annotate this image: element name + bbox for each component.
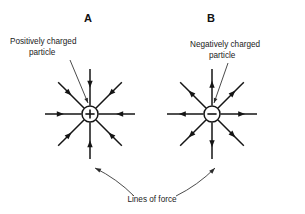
panel-a-field-arrow-icon xyxy=(87,140,92,147)
lines-of-force-label: Lines of force xyxy=(127,195,177,204)
panel-b-field-arrow-icon xyxy=(238,111,245,116)
panel-a-label-line-1: Positively charged xyxy=(10,37,77,46)
panel-a-leader-arrow-icon xyxy=(84,98,88,103)
field-lines-figure: APositively chargedparticleBNegatively c… xyxy=(0,0,305,214)
panel-b-field-arrow-icon xyxy=(209,140,214,147)
lines-of-force-leader-line xyxy=(176,168,215,196)
panel-b-label-line-1: Negatively charged xyxy=(190,40,261,49)
panel-a-field-arrow-icon xyxy=(116,111,123,116)
panel-b-letter: B xyxy=(207,12,215,24)
lines-of-force: Lines of force xyxy=(95,168,215,204)
panel-b-field-arrow-icon xyxy=(179,111,186,116)
figure-canvas: APositively chargedparticleBNegatively c… xyxy=(0,0,305,214)
lines-of-force-leader-line xyxy=(95,168,134,196)
lines-of-force-leader-arrow-icon xyxy=(95,168,101,173)
panel-b-field-arrow-icon xyxy=(209,81,214,88)
panel-a-label-line-2: particle xyxy=(29,48,56,57)
panel-b-leader-line xyxy=(214,63,228,103)
panel-a: APositively chargedparticle xyxy=(10,12,135,159)
panel-a-field-arrow-icon xyxy=(57,111,64,116)
panel-b-leader-arrow-icon xyxy=(214,98,218,103)
panel-a-letter: A xyxy=(84,12,92,24)
panel-a-field-arrow-icon xyxy=(87,81,92,88)
panel-b-label-line-2: particle xyxy=(209,51,236,60)
panel-b: BNegatively chargedparticle xyxy=(167,12,261,159)
